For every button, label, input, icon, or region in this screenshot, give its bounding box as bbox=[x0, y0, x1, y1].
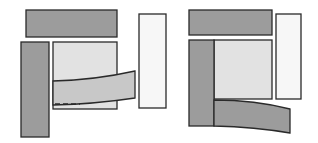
diagram-canvas bbox=[0, 0, 318, 143]
right-top-bar bbox=[189, 10, 272, 35]
right-curved-strip bbox=[214, 100, 290, 133]
left-configuration bbox=[21, 10, 166, 137]
right-configuration bbox=[189, 10, 301, 133]
right-right-bar bbox=[276, 14, 301, 99]
left-top-bar bbox=[26, 10, 117, 37]
right-left-bar bbox=[189, 40, 214, 126]
left-right-bar bbox=[139, 14, 166, 108]
right-center-square bbox=[214, 40, 272, 99]
left-left-bar bbox=[21, 42, 49, 137]
